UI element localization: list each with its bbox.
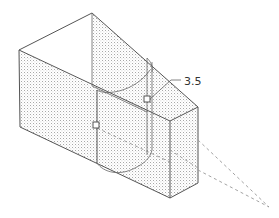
point-marker-right: [144, 96, 150, 102]
isometric-wedge-drawing: 3.5: [0, 0, 279, 218]
end-face: [170, 107, 198, 198]
dimension-label: 3.5: [184, 75, 202, 88]
point-marker-left: [93, 122, 99, 128]
